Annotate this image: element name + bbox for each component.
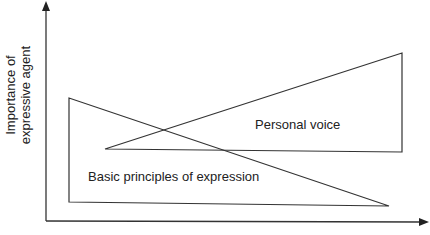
personal-voice-wedge xyxy=(105,53,402,152)
diagram-canvas xyxy=(0,0,430,235)
basic-principles-wedge xyxy=(69,98,389,206)
y-axis-label: Importance of expressive agent xyxy=(3,46,33,144)
x-axis-arrow-icon xyxy=(419,218,429,226)
basic-principles-label: Basic principles of expression xyxy=(88,169,259,184)
x-axis xyxy=(46,218,429,226)
y-axis-label-line2: expressive agent xyxy=(18,46,33,144)
y-axis-arrow-icon xyxy=(42,1,50,11)
personal-voice-label: Personal voice xyxy=(255,117,340,132)
y-axis-label-line1: Importance of xyxy=(3,46,18,144)
y-axis xyxy=(42,1,50,221)
